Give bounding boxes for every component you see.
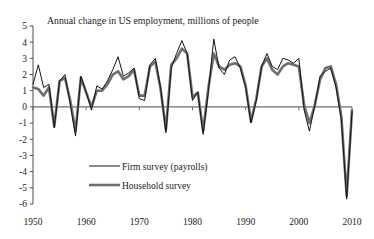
y-axis-tick-label: -1: [19, 118, 27, 128]
legend-label-household-survey: Household survey: [122, 181, 191, 191]
chart-container: 543210-1-2-3-4-5-6 195019601970198019902…: [0, 0, 374, 239]
x-axis-tick-label: 2000: [289, 217, 308, 227]
y-axis-tick-label: 3: [22, 54, 27, 64]
y-axis-tick-label: 2: [22, 70, 27, 80]
y-axis-tick-label: -4: [19, 167, 27, 177]
x-axis-tick-label: 1970: [130, 217, 149, 227]
y-axis-tick-label: 1: [22, 86, 27, 96]
x-axis-tick-label: 1990: [236, 217, 255, 227]
x-axis-tick-label: 1950: [24, 217, 43, 227]
x-axis-tick-label: 1980: [183, 217, 202, 227]
x-axis-tick-label: 1960: [77, 217, 96, 227]
chart-title: Annual change in US employment, millions…: [47, 15, 259, 26]
y-axis-tick-label: -5: [19, 183, 27, 193]
y-axis-tick-label: -3: [19, 151, 27, 161]
y-axis-tick-label: -6: [19, 199, 27, 209]
legend-label-firm-survey: Firm survey (payrolls): [122, 162, 208, 173]
y-axis-tick-label: 4: [22, 38, 27, 48]
y-axis-tick-label: 5: [22, 21, 27, 31]
x-axis-tick-label: 2010: [343, 217, 362, 227]
y-axis-tick-label: -2: [19, 135, 27, 145]
y-axis-tick-label: 0: [22, 102, 27, 112]
employment-change-line-chart: 543210-1-2-3-4-5-6 195019601970198019902…: [0, 0, 374, 239]
